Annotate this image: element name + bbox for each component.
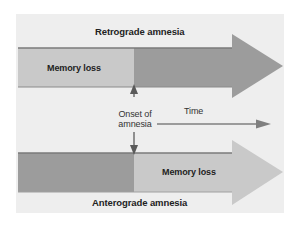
onset-down-arrow-icon — [130, 132, 138, 155]
time-arrow-icon — [157, 120, 271, 129]
anterograde-memory-loss-label: Memory loss — [162, 167, 216, 177]
anterograde-before-onset-segment — [18, 153, 134, 192]
anterograde-arrow — [18, 140, 283, 205]
onset-of-amnesia-label: Onset of amnesia — [113, 109, 157, 129]
retrograde-amnesia-title: Retrograde amnesia — [95, 26, 185, 37]
onset-line2: amnesia — [113, 119, 157, 129]
time-axis-label: Time — [184, 106, 203, 116]
retrograde-memory-loss-label: Memory loss — [47, 63, 101, 73]
onset-line1: Onset of — [113, 109, 157, 119]
retrograde-remaining-segment — [134, 34, 283, 98]
anterograde-amnesia-title: Anterograde amnesia — [92, 197, 187, 208]
